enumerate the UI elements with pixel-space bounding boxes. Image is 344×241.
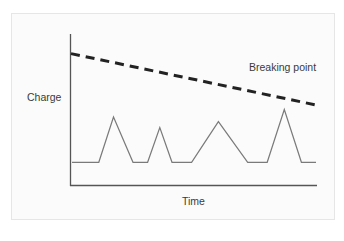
breaking-point-label: Breaking point xyxy=(249,61,316,73)
chart-canvas: Breaking point Charge Time xyxy=(0,0,344,241)
charge-line xyxy=(72,110,316,163)
x-axis-label: Time xyxy=(182,195,205,207)
cropped-caption-area xyxy=(0,0,344,6)
y-axis-label: Charge xyxy=(27,91,62,103)
